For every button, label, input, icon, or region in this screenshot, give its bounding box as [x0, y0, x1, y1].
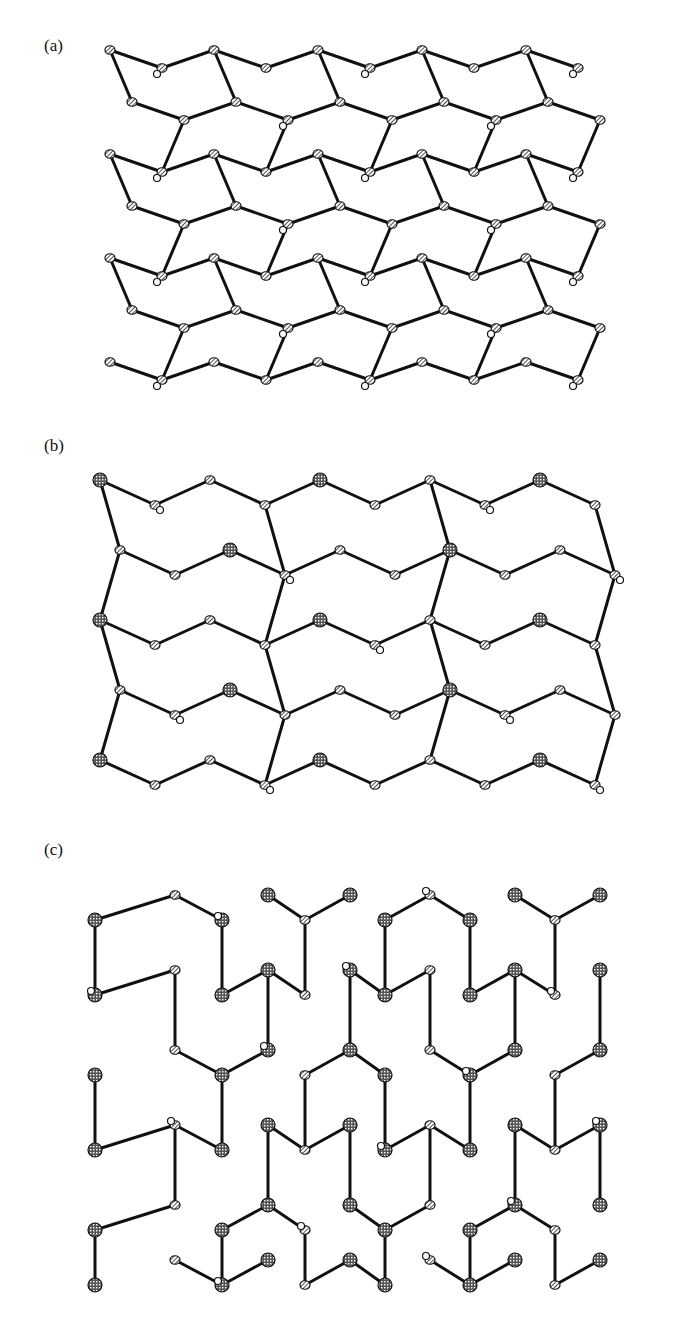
panel-a: (a)	[0, 0, 685, 440]
structure-diagram-a	[0, 0, 685, 440]
structure-diagram-b	[0, 440, 685, 840]
structure-diagram-c	[0, 840, 685, 1325]
panel-b: (b)	[0, 440, 685, 840]
panel-c: (c)	[0, 840, 685, 1325]
